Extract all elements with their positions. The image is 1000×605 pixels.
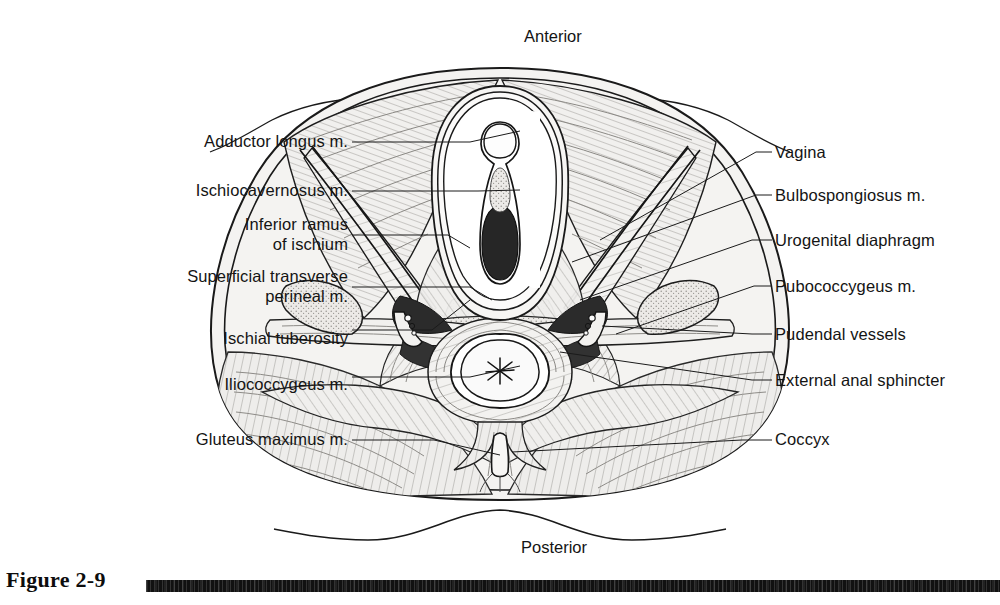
label-line: perineal m. [187,286,348,306]
label-line: Ischial tuberosity [223,328,348,348]
label-line: External anal sphincter [775,370,945,390]
label-line: Urogenital diaphragm [775,230,935,250]
posterior-contour-tail-left [274,529,368,540]
label-line: Iliococcygeus m. [224,374,348,394]
label-pudendal-vessels: Pudendal vessels [775,324,906,344]
label-line: Inferior ramus [245,214,348,234]
label-line: of ischium [245,234,348,254]
label-line: Coccyx [775,429,830,449]
posterior-contour [368,510,632,540]
label-ischiocavernosus: Ischiocavernosus m. [196,180,348,200]
label-superficial-transverse-perineal: Superficial transverseperineal m. [187,266,348,306]
figure-caption: Figure 2-9 [6,567,106,593]
label-line: Gluteus maximus m. [196,429,348,449]
label-line: Ischiocavernosus m. [196,180,348,200]
label-adductor-longus: Adductor longus m. [204,131,348,151]
label-inferior-ramus-of-ischium: Inferior ramusof ischium [245,214,348,254]
figure-caption-bar [146,580,1000,592]
label-external-anal-sphincter: External anal sphincter [775,370,945,390]
perineum-anatomy-illustration [0,0,1000,605]
orientation-posterior-label: Posterior [521,538,587,557]
label-vagina: Vagina [775,142,826,162]
label-urogenital-diaphragm: Urogenital diaphragm [775,230,935,250]
label-gluteus-maximus: Gluteus maximus m. [196,429,348,449]
label-ischial-tuberosity: Ischial tuberosity [223,328,348,348]
label-line: Pudendal vessels [775,324,906,344]
label-iliococcygeus: Iliococcygeus m. [224,374,348,394]
label-pubococcygeus: Pubococcygeus m. [775,276,916,296]
clitoris [484,124,516,158]
label-line: Vagina [775,142,826,162]
label-line: Pubococcygeus m. [775,276,916,296]
orientation-anterior-label: Anterior [524,27,582,46]
vaginal-orifice [482,206,518,280]
label-line: Superficial transverse [187,266,348,286]
label-line: Adductor longus m. [204,131,348,151]
posterior-contour-tail-right [632,529,726,540]
figure-page: Adductor longus m.Ischiocavernosus m.Inf… [0,0,1000,605]
label-line: Bulbospongiosus m. [775,185,925,205]
label-coccyx: Coccyx [775,429,830,449]
label-bulbospongiosus: Bulbospongiosus m. [775,185,925,205]
